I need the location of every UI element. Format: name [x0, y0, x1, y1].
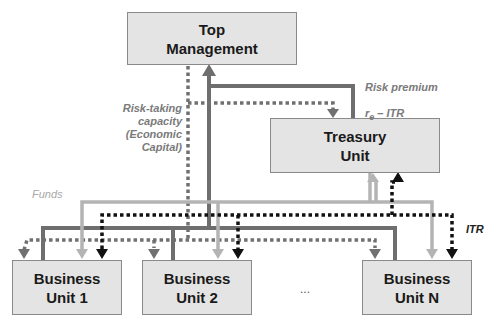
funds-label: Funds: [32, 188, 63, 201]
risk-premium-line1: Risk premium: [365, 81, 438, 94]
arrow-down-bun-itr-icon: [446, 249, 458, 259]
risk-premium-formula: re – ITR: [365, 107, 438, 124]
arrow-down-bu2-itr-icon: [232, 249, 244, 259]
business-unit-1-node: Business Unit 1: [12, 260, 122, 315]
business-unit-2-node: Business Unit 2: [142, 260, 252, 315]
arrow-down-bun-capacity-icon: [369, 249, 381, 259]
arrow-up-top-management-icon: [202, 64, 216, 76]
risk-taking-capacity-label: Risk-taking capacity (Economic Capital): [108, 102, 182, 154]
arrow-down-bun-funds-icon: [426, 249, 438, 259]
formula-rest: – ITR: [374, 107, 404, 119]
arrow-down-bu1-capacity-icon: [18, 249, 30, 259]
itr-label: ITR: [466, 223, 484, 236]
arrow-down-bu2-funds-icon: [212, 249, 224, 259]
risk-premium-label: Risk premium re – ITR: [365, 68, 438, 137]
arrow-down-bu1-itr-icon: [96, 249, 108, 259]
arrow-up-treasury-itr-icon: [392, 172, 404, 182]
arrow-down-bu2-capacity-icon: [148, 249, 160, 259]
business-unit-n-node: Business Unit N: [362, 260, 472, 315]
more-units-ellipsis: ...: [300, 282, 310, 296]
arrow-down-bu1-funds-icon: [76, 249, 88, 259]
arrow-down-treasury-icon: [327, 109, 339, 118]
top-management-node: Top Management: [127, 12, 297, 65]
